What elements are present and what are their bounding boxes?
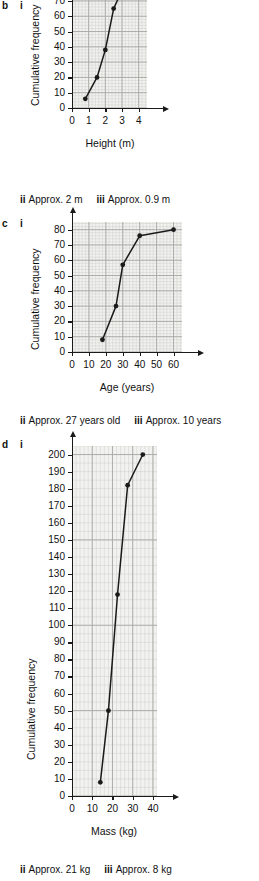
chart-d-y-tick	[68, 779, 72, 780]
chart-b-x-tick-label: 3	[119, 116, 125, 126]
answer-roman: iii	[96, 194, 104, 205]
chart-b-x-tick	[72, 108, 73, 112]
chart-d-y-tick	[68, 762, 72, 763]
chart-b-x-tick-label: 4	[136, 116, 142, 126]
answer-text: Approx. 0.9 m	[108, 194, 170, 205]
answer-text: Approx. 21 kg	[29, 864, 91, 875]
chart-d-y-tick-label: 190	[32, 467, 65, 477]
chart-c-y-tick	[68, 276, 72, 277]
answers-page: bicidiiiApprox. 2 miiiApprox. 0.9 miiApp…	[0, 0, 259, 881]
chart-c-y-tick	[68, 291, 72, 292]
chart-c-x-tick-label: 40	[134, 360, 145, 370]
chart-d-y-tick-label: 10	[32, 774, 65, 784]
chart-b-y-tick	[68, 77, 72, 78]
chart-c-y-axis	[72, 213, 73, 352]
chart-b-x-axis-title: Height (m)	[50, 138, 170, 149]
chart-c-x-axis	[72, 352, 198, 353]
chart-d-y-tick	[68, 642, 72, 643]
chart-c-x-tick	[140, 352, 141, 356]
chart-b-x-axis	[72, 108, 163, 109]
chart-d-y-tick	[68, 676, 72, 677]
chart-d: 0102030405060708090100110120130140150160…	[0, 440, 259, 860]
answer-segment: iiiApprox. 0.9 m	[96, 195, 170, 205]
chart-c-x-tick	[174, 352, 175, 356]
chart-c-x-tick	[123, 352, 124, 356]
chart-c-y-tick-label: 80	[32, 225, 65, 235]
answer-text: Approx. 8 kg	[116, 864, 172, 875]
chart-d-y-tick	[68, 540, 72, 541]
chart-d-y-tick	[68, 659, 72, 660]
chart-c-x-tick	[89, 352, 90, 356]
chart-d-x-tick-label: 0	[69, 804, 75, 814]
chart-d-y-tick-label: 200	[32, 450, 65, 460]
chart-d-x-axis	[72, 796, 173, 797]
chart-d-y-tick	[68, 472, 72, 473]
chart-d-x-tick	[112, 796, 113, 800]
chart-d-y-tick-label: 150	[32, 535, 65, 545]
chart-d-y-tick-label: 130	[32, 569, 65, 579]
chart-b-y-tick	[68, 47, 72, 48]
chart-b-y-tick	[68, 62, 72, 63]
chart-d-y-tick	[68, 506, 72, 507]
answer-roman: ii	[20, 864, 26, 875]
chart-d-y-tick	[68, 489, 72, 490]
chart-d-x-tick-label: 20	[107, 804, 118, 814]
chart-c: 010203040506070800102030405060Age (years…	[0, 218, 259, 418]
chart-d-y-axis-title: Cumulative frequency	[26, 658, 37, 760]
chart-d-y-tick-label: 160	[32, 518, 65, 528]
chart-d-x-tick	[153, 796, 154, 800]
chart-b-x-tick-label: 2	[103, 116, 109, 126]
answer-roman: ii	[20, 194, 26, 205]
chart-c-grid	[72, 222, 182, 352]
chart-b-x-axis-arrow-icon	[163, 106, 169, 112]
chart-c-y-tick	[68, 337, 72, 338]
chart-d-y-tick-label: 140	[32, 552, 65, 562]
chart-d-y-tick-label: 100	[32, 620, 65, 630]
chart-c-x-tick	[157, 352, 158, 356]
chart-d-x-tick-label: 40	[147, 804, 158, 814]
chart-b-x-tick	[89, 108, 90, 112]
answer-segment: iiApprox. 21 kg	[20, 865, 90, 875]
chart-b-x-tick	[139, 108, 140, 112]
chart-b-y-tick	[68, 16, 72, 17]
chart-c-x-tick-label: 10	[83, 360, 94, 370]
chart-c-x-tick	[72, 352, 73, 356]
chart-c-x-tick-label: 0	[69, 360, 75, 370]
chart-c-plot-area	[72, 222, 182, 352]
chart-c-y-tick	[68, 306, 72, 307]
chart-c-y-tick	[68, 230, 72, 231]
chart-b: 0102030405060708001234Height (m)Cumulati…	[0, 0, 259, 178]
chart-d-y-tick-label: 120	[32, 586, 65, 596]
chart-d-y-tick-label: 170	[32, 501, 65, 511]
chart-d-y-tick	[68, 608, 72, 609]
chart-d-y-tick	[68, 455, 72, 456]
chart-d-y-tick	[68, 591, 72, 592]
chart-b-y-axis	[72, 0, 73, 108]
chart-c-y-tick	[68, 321, 72, 322]
chart-d-y-axis-arrow-icon	[70, 431, 76, 437]
chart-c-y-axis-title: Cumulative frequency	[30, 248, 41, 350]
chart-b-y-tick	[68, 32, 72, 33]
chart-d-x-tick	[133, 796, 134, 800]
answer-segment: iiApprox. 2 m	[20, 195, 82, 205]
chart-b-x-tick-label: 1	[86, 116, 92, 126]
chart-d-y-tick-label: 0	[32, 791, 65, 801]
chart-d-y-tick	[68, 728, 72, 729]
chart-b-y-axis-title: Cumulative frequency	[30, 4, 41, 106]
chart-d-y-tick	[68, 711, 72, 712]
chart-b-x-tick	[105, 108, 106, 112]
chart-d-y-tick	[68, 523, 72, 524]
chart-c-x-tick	[106, 352, 107, 356]
chart-d-y-tick-label: 110	[32, 603, 65, 613]
chart-d-grid	[72, 446, 157, 796]
chart-b-y-tick	[68, 93, 72, 94]
chart-b-x-tick	[122, 108, 123, 112]
answer-text: Approx. 2 m	[29, 194, 83, 205]
chart-b-plot-area	[72, 0, 147, 108]
chart-d-y-tick	[68, 557, 72, 558]
chart-d-x-tick-label: 10	[87, 804, 98, 814]
chart-d-x-axis-arrow-icon	[173, 794, 179, 800]
answer-segment: iiiApprox. 8 kg	[104, 865, 172, 875]
chart-c-y-axis-arrow-icon	[70, 207, 76, 213]
chart-b-grid	[72, 0, 147, 108]
